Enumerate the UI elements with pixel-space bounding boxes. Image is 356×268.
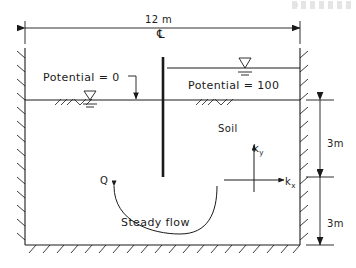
water-table-symbol-upstream <box>238 58 252 75</box>
depth-dimension-lower <box>306 177 334 245</box>
permeability-kx-label: kx <box>285 176 296 190</box>
impervious-hatch-left <box>17 51 25 240</box>
discharge-label: Q <box>100 175 108 186</box>
steady-flow-caption: Steady flow <box>121 216 190 229</box>
potential-left-label: Potential = 0 <box>43 71 120 84</box>
impervious-hatch-right <box>300 51 308 240</box>
water-table-symbol-downstream <box>83 91 97 107</box>
potential-zero-leader <box>128 76 136 99</box>
ky-subscript: y <box>259 148 264 157</box>
potential-right-label: Potential = 100 <box>188 79 279 92</box>
kx-subscript: x <box>291 181 296 190</box>
soil-label: Soil <box>218 123 238 134</box>
centerline-symbol: ℄ <box>157 27 165 41</box>
scan-artifact <box>292 1 352 9</box>
permeability-ky-label: ky <box>253 143 264 157</box>
depth-label-lower: 3m <box>327 218 344 229</box>
figure-root: 12 m ℄ Potential = 0 Potential = 100 Soi… <box>0 0 356 268</box>
depth-label-upper: 3m <box>327 138 344 149</box>
impervious-hatch-base <box>29 245 300 253</box>
dimension-label-top-width: 12 m <box>145 14 172 25</box>
